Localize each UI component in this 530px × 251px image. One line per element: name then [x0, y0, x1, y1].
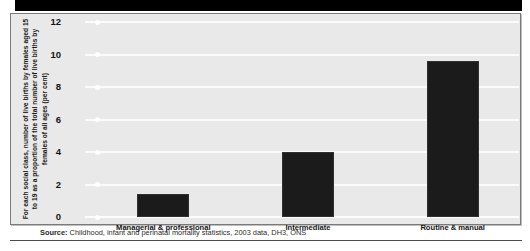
- bar[interactable]: [137, 194, 189, 217]
- gridline: [85, 21, 519, 23]
- top-banner: [15, 0, 522, 11]
- source-note: Source: Childhood, infant and perinatal …: [40, 228, 510, 238]
- y-axis-tick-dot: [95, 150, 100, 155]
- plot-inner: 024681012: [85, 22, 519, 217]
- source-divider: [10, 240, 522, 241]
- y-axis-tick-label: 12: [13, 17, 61, 27]
- chart-figure: For each social class, number of live bi…: [0, 0, 530, 251]
- bar[interactable]: [282, 152, 334, 217]
- source-text: Childhood, infant and perinatal mortalit…: [68, 228, 307, 237]
- y-axis-tick-label: 0: [13, 212, 61, 222]
- plot-area: 024681012 Managerial & professionalInter…: [71, 22, 519, 217]
- gridline: [85, 54, 519, 56]
- y-axis-tick-dot: [95, 20, 100, 25]
- y-axis-tick-dot: [95, 117, 100, 122]
- bar[interactable]: [427, 61, 479, 217]
- y-axis-tick-label: 10: [13, 50, 61, 60]
- y-axis-tick-label: 6: [13, 115, 61, 125]
- y-axis-tick-label: 2: [13, 180, 61, 190]
- y-axis-tick-dot: [95, 52, 100, 57]
- y-axis-tick-dot: [95, 85, 100, 90]
- source-prefix: Source:: [40, 228, 68, 237]
- y-axis-tick-label: 4: [13, 147, 61, 157]
- y-axis-tick-dot: [95, 215, 100, 220]
- chart-frame: For each social class, number of live bi…: [10, 13, 521, 225]
- y-axis-tick-label: 8: [13, 82, 61, 92]
- y-axis-tick-dot: [95, 182, 100, 187]
